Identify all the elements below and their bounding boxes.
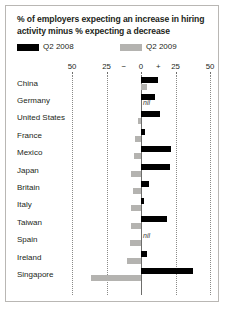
bar-q2-2008: [141, 181, 149, 187]
chart-frame: % of employers expecting an increase in …: [5, 5, 219, 302]
chart-row: Ireland: [6, 249, 220, 266]
legend-label-q2-2008: Q2 2008: [43, 42, 74, 51]
chart-row: France: [6, 127, 220, 144]
bar-q2-2009: [135, 136, 141, 142]
category-label: Japan: [17, 166, 39, 175]
category-label: Spain: [17, 235, 37, 244]
x-axis-tick-label: 25: [171, 62, 180, 71]
bar-q2-2008: [141, 146, 171, 152]
bar-q2-2009: [131, 171, 141, 177]
bar-q2-2008: [141, 164, 170, 170]
chart-row: Taiwan: [6, 214, 220, 231]
bar-q2-2008: [141, 268, 193, 274]
chart-row: Britain: [6, 179, 220, 196]
bar-q2-2008: [141, 198, 144, 204]
category-label: France: [17, 131, 42, 140]
category-label: Singapore: [17, 270, 53, 279]
x-axis-tick-label: 50: [68, 62, 77, 71]
bar-q2-2009: [127, 258, 141, 264]
bar-q2-2009: [134, 153, 141, 159]
chart-row: Spainnil: [6, 232, 220, 249]
x-axis-sign: −: [121, 62, 126, 71]
category-label: Mexico: [17, 148, 42, 157]
bar-q2-2009: [91, 275, 141, 281]
chart-row: Singapore: [6, 266, 220, 283]
category-label: Taiwan: [17, 218, 42, 227]
bar-q2-2008: [141, 216, 167, 222]
chart-rows: ChinaGermanynilUnited StatesFranceMexico…: [6, 75, 220, 284]
category-label: Germany: [17, 96, 50, 105]
bar-q2-2009: [138, 118, 141, 124]
bar-q2-2009: [133, 188, 141, 194]
bar-q2-2008: [141, 251, 147, 257]
x-axis-tick-label: 0: [139, 62, 143, 71]
bar-q2-2008: [141, 111, 160, 117]
category-label: United States: [17, 113, 65, 122]
bar-q2-2009: [130, 240, 141, 246]
legend-label-q2-2009: Q2 2009: [146, 42, 177, 51]
chart-title: % of employers expecting an increase in …: [17, 14, 213, 37]
chart-row: Mexico: [6, 145, 220, 162]
category-label: Italy: [17, 200, 32, 209]
chart-row: Japan: [6, 162, 220, 179]
category-label: China: [17, 79, 38, 88]
bar-q2-2008: [141, 129, 145, 135]
legend-swatch-q2-2008: [17, 44, 39, 51]
category-label: Britain: [17, 183, 40, 192]
bar-q2-2009: [131, 205, 141, 211]
chart-row: China: [6, 75, 220, 92]
bar-q2-2009: [141, 84, 147, 90]
category-label: Ireland: [17, 253, 41, 262]
x-axis-sign: +: [156, 62, 161, 71]
legend-swatch-q2-2009: [120, 44, 142, 51]
bar-q2-2009: [131, 223, 141, 229]
chart-plot-area: 5025−0+2550 ChinaGermanynilUnited States…: [6, 62, 220, 302]
x-axis-tick-label: 25: [102, 62, 111, 71]
bar-q2-2008: [141, 77, 158, 83]
x-axis-tick-label: 50: [206, 62, 215, 71]
chart-row: Germanynil: [6, 92, 220, 109]
chart-row: Italy: [6, 197, 220, 214]
nil-label: nil: [143, 232, 150, 239]
nil-label: nil: [143, 99, 150, 106]
chart-legend: Q2 2008 Q2 2009: [17, 42, 213, 54]
chart-row: United States: [6, 110, 220, 127]
